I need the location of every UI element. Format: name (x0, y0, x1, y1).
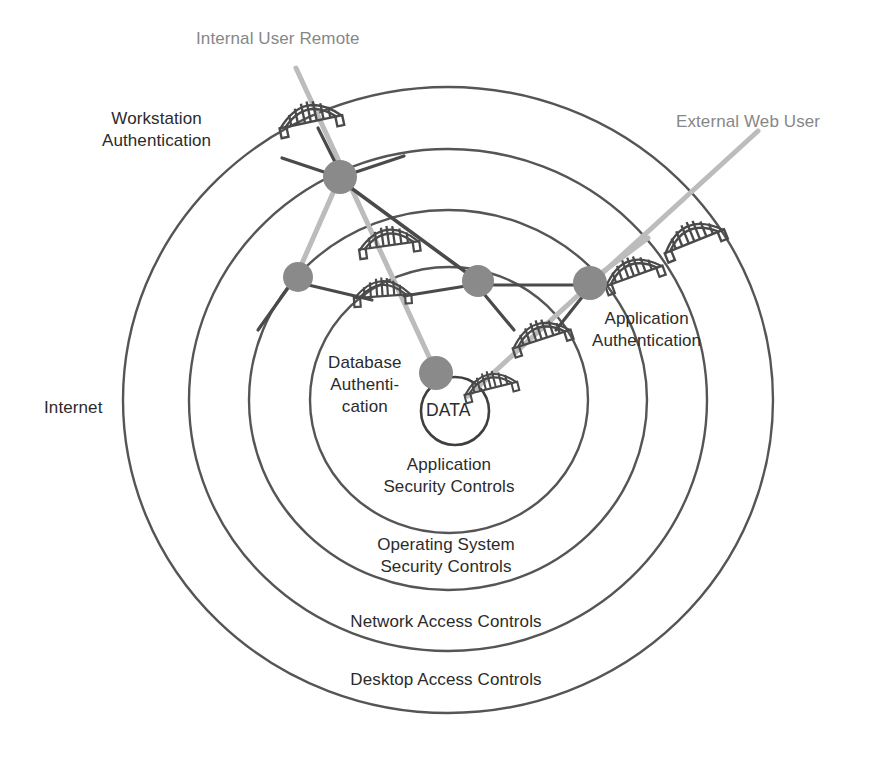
ring-label-application-security-controls: Application Security Controls (361, 454, 537, 499)
user-label-external-web-user: External Web User (676, 111, 820, 133)
ring-label-desktop-access-controls: Desktop Access Controls (326, 669, 566, 691)
label-workstation-authentication: Workstation Authentication (102, 108, 211, 153)
label-internet: Internet (44, 397, 102, 419)
connector-osgate-to-app (404, 286, 466, 296)
connector-workstation-to-app (343, 182, 482, 284)
label-data-core: DATA (426, 399, 470, 422)
node-external-app (573, 266, 607, 300)
label-application-authentication: Application Authentication (592, 308, 701, 352)
bridge-gateway-icon (657, 211, 727, 262)
path-internal-user-remote (296, 68, 437, 374)
node-workstation (323, 160, 357, 194)
node-internal-os (283, 262, 313, 292)
connector-os-down-left (258, 288, 288, 330)
ring-label-operating-system-security-controls: Operating System Security Controls (346, 534, 546, 579)
connector-app-down (484, 294, 514, 330)
ring-label-network-access-controls: Network Access Controls (326, 611, 566, 633)
connector-workstation-left (282, 158, 324, 172)
label-database-authentication: Database Authenti- cation (328, 352, 402, 417)
bridge-gateway-icon (357, 223, 421, 259)
node-internal-app (462, 265, 494, 297)
security-layers-diagram: Internal User Remote External Web User W… (0, 0, 892, 767)
node-database (419, 356, 453, 390)
user-label-internal-user-remote: Internal User Remote (196, 28, 360, 50)
